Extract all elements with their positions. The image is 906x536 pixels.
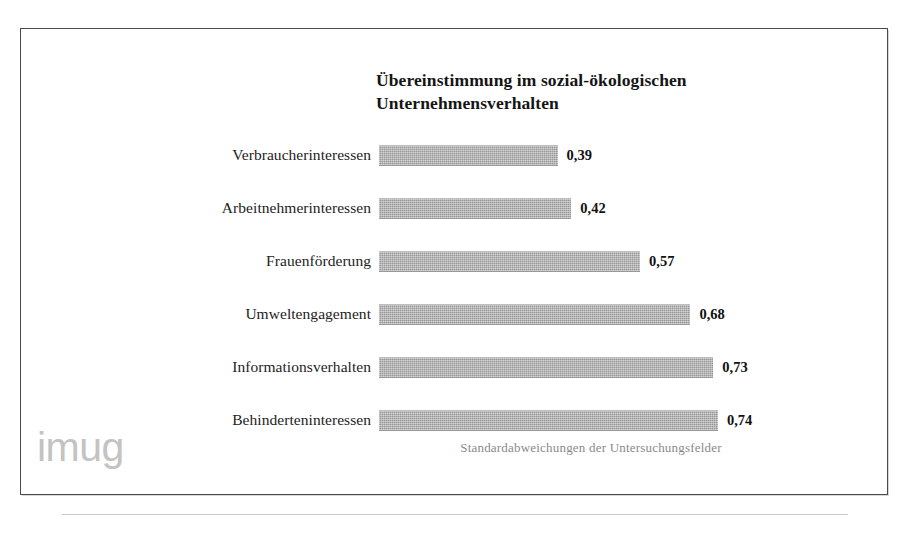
bar-value-label: 0,74 <box>727 412 752 429</box>
chart-title-line-1: Übereinstimmung im sozial-ökologischen <box>376 69 806 92</box>
bar-track: 0,57 <box>379 251 883 272</box>
chart-caption: Standardabweichungen der Untersuchungsfe… <box>376 440 806 456</box>
bar-row: Informationsverhalten 0,73 <box>21 349 889 402</box>
page-footnote <box>62 519 762 536</box>
bar-fill <box>379 410 718 431</box>
bar-track: 0,68 <box>379 304 883 325</box>
figure-frame: Übereinstimmung im sozial-ökologischen U… <box>20 28 888 495</box>
bar-fill <box>379 304 690 325</box>
bar-category-label: Verbraucherinteressen <box>232 146 371 164</box>
bar-value-label: 0,73 <box>722 359 747 376</box>
bar-track: 0,39 <box>379 145 883 166</box>
bar-row: Frauenförderung 0,57 <box>21 243 889 296</box>
bar-category-label: Frauenförderung <box>266 252 371 270</box>
page-divider <box>62 514 848 515</box>
bar-row: Arbeitnehmerinteressen 0,42 <box>21 190 889 243</box>
bar-chart-plot-area: Verbraucherinteressen 0,39 Arbeitnehmeri… <box>21 137 889 455</box>
bar-value-label: 0,57 <box>649 253 674 270</box>
bar-fill <box>379 198 571 219</box>
bar-track: 0,74 <box>379 410 883 431</box>
bar-fill <box>379 251 640 272</box>
bar-category-label: Arbeitnehmerinteressen <box>222 199 371 217</box>
bar-track: 0,73 <box>379 357 883 378</box>
imug-logo: imug <box>37 427 124 468</box>
bar-track: 0,42 <box>379 198 883 219</box>
bar-fill <box>379 357 713 378</box>
bar-row: Umweltengagement 0,68 <box>21 296 889 349</box>
bar-category-label: Behinderteninteressen <box>232 411 371 429</box>
bar-value-label: 0,39 <box>567 147 592 164</box>
bar-value-label: 0,42 <box>580 200 605 217</box>
bar-category-label: Informationsverhalten <box>232 358 371 376</box>
chart-title-line-2: Unternehmensverhalten <box>376 92 806 115</box>
bar-category-label: Umweltengagement <box>245 305 371 323</box>
bar-fill <box>379 145 558 166</box>
bar-row: Verbraucherinteressen 0,39 <box>21 137 889 190</box>
bar-value-label: 0,68 <box>699 306 724 323</box>
chart-title: Übereinstimmung im sozial-ökologischen U… <box>376 69 806 115</box>
